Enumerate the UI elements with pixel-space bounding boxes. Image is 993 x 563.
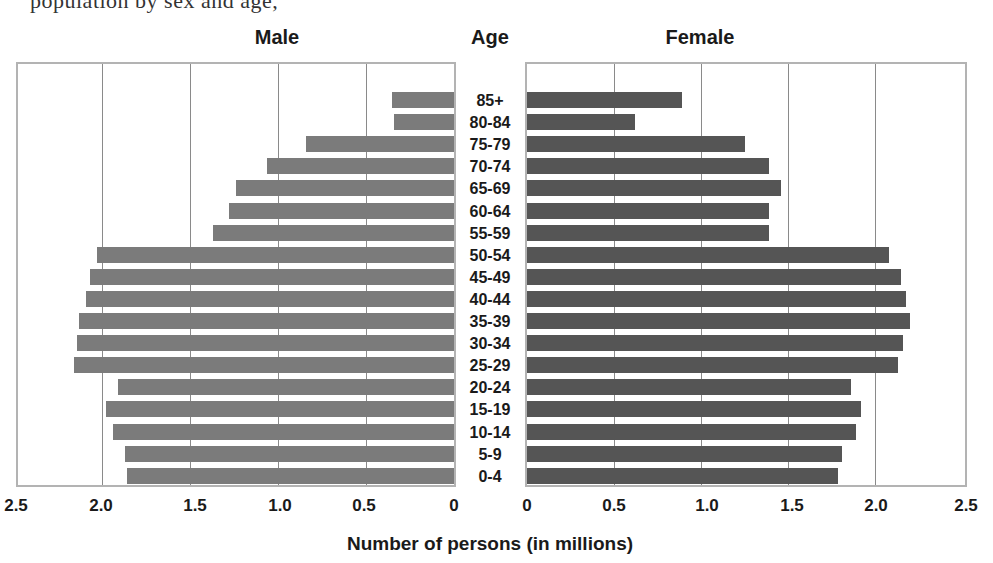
x-tick-label: 1.5 <box>183 496 207 516</box>
cutoff-caption-text: population by sex and age, <box>30 0 278 14</box>
female-bar <box>527 313 910 329</box>
female-bar <box>527 180 781 196</box>
male-plot-area <box>16 62 456 487</box>
x-tick-label: 1.0 <box>268 496 292 516</box>
male-bar <box>79 313 454 329</box>
age-header: Age <box>471 26 509 49</box>
male-bar <box>118 379 454 395</box>
female-bar <box>527 136 745 152</box>
female-plot-area <box>525 62 967 487</box>
male-bar <box>90 269 454 285</box>
female-bar <box>527 291 906 307</box>
female-bar <box>527 379 851 395</box>
x-tick-label: 2.5 <box>954 496 978 516</box>
female-bar <box>527 446 842 462</box>
male-bar <box>394 114 454 130</box>
female-bar <box>527 335 903 351</box>
female-bar <box>527 269 901 285</box>
female-bar <box>527 203 769 219</box>
x-tick-label: 2.0 <box>864 496 888 516</box>
x-axis-label: Number of persons (in millions) <box>347 533 633 555</box>
female-bar <box>527 92 682 108</box>
male-bar <box>236 180 454 196</box>
male-bar <box>86 291 454 307</box>
female-header: Female <box>666 26 735 49</box>
x-tick-label: 0.5 <box>602 496 626 516</box>
x-tick-label: 0 <box>449 496 458 516</box>
male-bar <box>97 247 454 263</box>
female-bar <box>527 158 769 174</box>
male-bar <box>106 401 454 417</box>
female-bar <box>527 468 838 484</box>
x-tick-label: 0.5 <box>352 496 376 516</box>
female-bar <box>527 401 861 417</box>
x-tick-label: 1.0 <box>695 496 719 516</box>
x-tick-label: 2.0 <box>89 496 113 516</box>
female-bar <box>527 357 898 373</box>
male-bar <box>392 92 454 108</box>
female-bar <box>527 247 889 263</box>
male-bar <box>125 446 454 462</box>
male-bar <box>74 357 454 373</box>
female-bar <box>527 424 856 440</box>
x-tick-label: 1.5 <box>780 496 804 516</box>
male-bar <box>77 335 454 351</box>
male-bar <box>267 158 454 174</box>
x-tick-label: 2.5 <box>4 496 28 516</box>
male-header: Male <box>255 26 299 49</box>
male-bar <box>306 136 454 152</box>
male-bar <box>229 203 454 219</box>
male-bar <box>213 225 454 241</box>
female-bar <box>527 225 769 241</box>
male-bar <box>113 424 454 440</box>
male-bar <box>127 468 454 484</box>
female-bar <box>527 114 635 130</box>
x-tick-label: 0 <box>522 496 531 516</box>
